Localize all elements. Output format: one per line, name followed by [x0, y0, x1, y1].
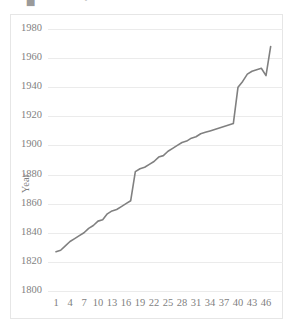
y-tick-label: 1900	[8, 138, 42, 149]
data-line-1[interactable]	[56, 46, 271, 251]
y-tick-label: 1800	[8, 284, 42, 295]
y-tick-label: 1840	[8, 226, 42, 237]
gridlines-group	[48, 30, 283, 292]
x-tick-label: 46	[258, 297, 274, 308]
y-tick-label: 1980	[8, 22, 42, 33]
y-tick-label: 1940	[8, 80, 42, 91]
y-tick-label: 1820	[8, 255, 42, 266]
y-tick-label: 1880	[8, 168, 42, 179]
line-chart-plot	[0, 0, 296, 330]
data-series-group	[56, 46, 271, 251]
y-tick-label: 1860	[8, 197, 42, 208]
y-tick-label: 1960	[8, 51, 42, 62]
y-tick-label: 1920	[8, 109, 42, 120]
